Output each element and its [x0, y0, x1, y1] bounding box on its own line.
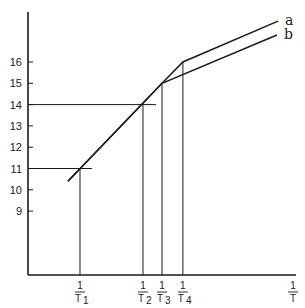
y-tick-label: 15	[10, 77, 22, 89]
x-tick-label-4: 1T4	[178, 280, 192, 306]
series-line-a	[68, 21, 278, 181]
chart: 910111213141516 1T11T21T31T41T ab	[0, 0, 305, 308]
fraction-subscript: 4	[186, 295, 192, 306]
fraction-numerator: 1	[290, 280, 296, 291]
fraction-subscript: 2	[146, 295, 152, 306]
y-tick-label: 16	[10, 56, 22, 68]
y-tick-label: 11	[11, 163, 22, 175]
reference-lines	[28, 62, 183, 275]
fraction-denominator: T	[157, 293, 163, 304]
y-ticks: 910111213141516	[10, 56, 33, 217]
x-axis-label: 1T	[288, 280, 298, 304]
fraction-subscript: 3	[165, 295, 171, 306]
fraction-numerator: 1	[77, 280, 83, 291]
y-tick-label: 13	[10, 120, 22, 132]
fraction-numerator: 1	[180, 280, 186, 291]
y-tick-label: 9	[16, 205, 22, 217]
x-ticks: 1T11T21T31T41T	[75, 280, 298, 306]
fraction-numerator: 1	[159, 280, 165, 291]
series-label-b: b	[284, 26, 293, 42]
fraction-denominator: T	[138, 293, 144, 304]
fraction-denominator: T	[178, 293, 184, 304]
x-tick-label-2: 1T2	[138, 280, 152, 306]
fraction-subscript: 1	[83, 295, 89, 306]
series-lines	[68, 21, 278, 181]
y-tick-label: 10	[10, 184, 22, 196]
fraction-denominator: T	[290, 293, 296, 304]
fraction-numerator: 1	[140, 280, 146, 291]
x-tick-label-3: 1T3	[157, 280, 171, 306]
y-tick-label: 12	[10, 141, 22, 153]
fraction-denominator: T	[75, 293, 81, 304]
series-line-b	[68, 35, 277, 181]
y-tick-label: 14	[10, 99, 22, 111]
series-labels: ab	[284, 12, 293, 42]
x-tick-label-1: 1T1	[75, 280, 89, 306]
